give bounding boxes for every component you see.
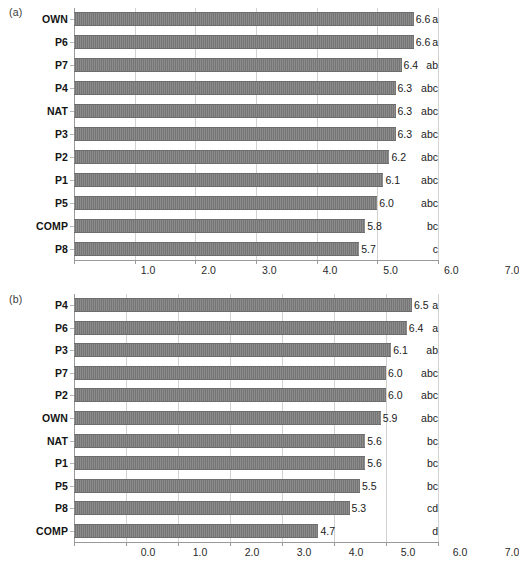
category-label: P8	[55, 243, 68, 255]
category-label: NAT	[47, 105, 68, 117]
category-label: NAT	[47, 435, 68, 447]
category-label: P4	[55, 82, 68, 94]
x-tick-label: 1.0	[193, 546, 208, 558]
category-label: P6	[55, 36, 68, 48]
category-label: P1	[55, 174, 68, 186]
category-label: OWN	[42, 412, 68, 424]
chart-panel-a: (a) OWN6.6aP66.6aP76.4abP46.3abcNAT6.3ab…	[0, 0, 449, 288]
caption-partial	[0, 558, 449, 572]
x-axis-b: 0.01.02.03.04.05.06.07.0	[74, 288, 438, 560]
x-tick-label: 7.0	[505, 264, 519, 276]
x-tick-label: 6.0	[444, 264, 459, 276]
category-label: P7	[55, 367, 68, 379]
category-label: P1	[55, 457, 68, 469]
x-tick-label: 3.0	[262, 264, 277, 276]
x-tick-label: 2.0	[245, 546, 260, 558]
x-axis-line	[74, 542, 438, 543]
x-tick-label: 4.0	[323, 264, 338, 276]
panel-label-a: (a)	[9, 6, 22, 18]
x-tick-label: 2.0	[201, 264, 216, 276]
x-tick-label: 1.0	[141, 264, 156, 276]
x-tick-label: 3.0	[297, 546, 312, 558]
category-label: P3	[55, 344, 68, 356]
category-label: P5	[55, 480, 68, 492]
category-label: P2	[55, 389, 68, 401]
x-axis-a: 1.02.03.04.05.06.07.0	[74, 0, 438, 288]
category-label: P4	[55, 299, 68, 311]
chart-panel-b: (b) P46.5aP66.4aP36.1abP76.0abcP26.0abcO…	[0, 288, 449, 560]
panel-label-b: (b)	[9, 293, 22, 305]
category-label: P5	[55, 197, 68, 209]
category-label: COMP	[36, 525, 68, 537]
x-tick-label: 5.0	[383, 264, 398, 276]
x-tick	[438, 542, 439, 546]
x-tick-label: 0.0	[141, 546, 156, 558]
x-tick-label: 6.0	[453, 546, 468, 558]
category-label: P7	[55, 59, 68, 71]
category-label: P2	[55, 151, 68, 163]
category-label: COMP	[36, 220, 68, 232]
x-tick	[438, 260, 439, 264]
category-label: P3	[55, 128, 68, 140]
x-axis-line	[74, 260, 438, 261]
x-tick-label: 4.0	[349, 546, 364, 558]
category-label: OWN	[42, 13, 68, 25]
x-tick-label: 7.0	[505, 546, 519, 558]
category-label: P6	[55, 322, 68, 334]
x-tick-label: 5.0	[401, 546, 416, 558]
category-label: P8	[55, 502, 68, 514]
